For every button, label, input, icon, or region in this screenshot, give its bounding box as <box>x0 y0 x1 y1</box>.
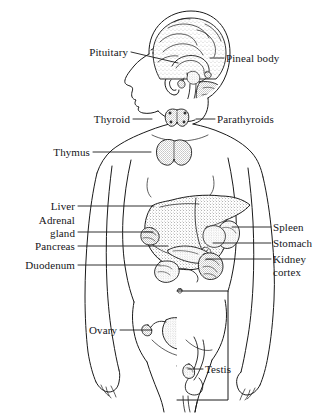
thymus-gland <box>156 139 191 165</box>
label-thymus: Thymus <box>43 146 90 159</box>
pituitary-gland <box>178 78 185 88</box>
label-pineal-body: Pineal body <box>226 52 302 65</box>
endocrine-system-figure: Pituitary Pineal body Thyroid Parathyroi… <box>0 0 333 415</box>
pineal-gland <box>205 72 212 79</box>
cerebellum <box>196 81 226 113</box>
label-adrenal-gland: Adrenal gland <box>26 214 75 239</box>
male-pelvis-inset <box>177 289 228 412</box>
label-spleen: Spleen <box>273 221 328 234</box>
label-testis: Testis <box>205 363 245 376</box>
brain-section <box>153 18 226 113</box>
label-pancreas: Pancreas <box>19 240 75 253</box>
adrenal-glands <box>141 227 159 245</box>
label-ovary: Ovary <box>81 324 117 337</box>
label-duodenum: Duodenum <box>12 259 75 272</box>
label-stomach: Stomach <box>273 237 331 250</box>
label-thyroid: Thyroid <box>86 113 130 126</box>
stomach <box>203 226 225 248</box>
label-kidney-cortex: Kidney cortex <box>273 253 328 278</box>
label-pituitary: Pituitary <box>72 46 128 59</box>
kidney-cortex <box>198 253 223 280</box>
label-liver: Liver <box>44 200 75 213</box>
label-parathyroids: Parathyroids <box>217 113 299 126</box>
